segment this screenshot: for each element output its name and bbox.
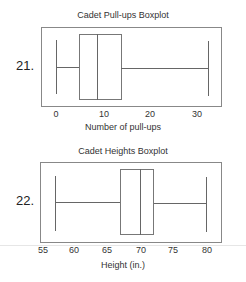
chart1-title: Cadet Pull-ups Boxplot [0,10,246,20]
chart2-xlabel: Height (in.) [0,260,246,270]
problem-number-22: 22. [16,193,34,208]
chart2-iqr-box [120,169,154,235]
chart1-tick: 10 [99,109,109,119]
chart2-min-whisker [55,176,56,231]
chart1-tick: 30 [192,109,202,119]
chart1-tick: 0 [53,109,58,119]
chart2-tick: 70 [136,245,146,255]
chart1-median-line [97,34,98,100]
chart2-tick: 65 [102,245,112,255]
chart1-left-whisker-line [56,67,80,68]
problem-number-21: 21. [16,58,34,73]
chart2-tick: 75 [168,245,178,255]
chart1-iqr-box [79,34,122,100]
chart1-max-whisker [208,41,209,96]
chart1-xlabel: Number of pull-ups [0,122,246,132]
chart1-right-whisker-line [121,68,208,69]
chart1-tick: 20 [145,109,155,119]
chart2-max-whisker [206,177,207,232]
chart2-tick: 80 [202,245,212,255]
chart2-tick: 60 [69,245,79,255]
chart2-tick: 55 [38,245,48,255]
chart2-right-whisker-line [154,203,207,204]
chart2-left-whisker-line [55,202,121,203]
chart2-median-line [140,169,141,235]
chart2-title: Cadet Heights Boxplot [0,146,246,156]
